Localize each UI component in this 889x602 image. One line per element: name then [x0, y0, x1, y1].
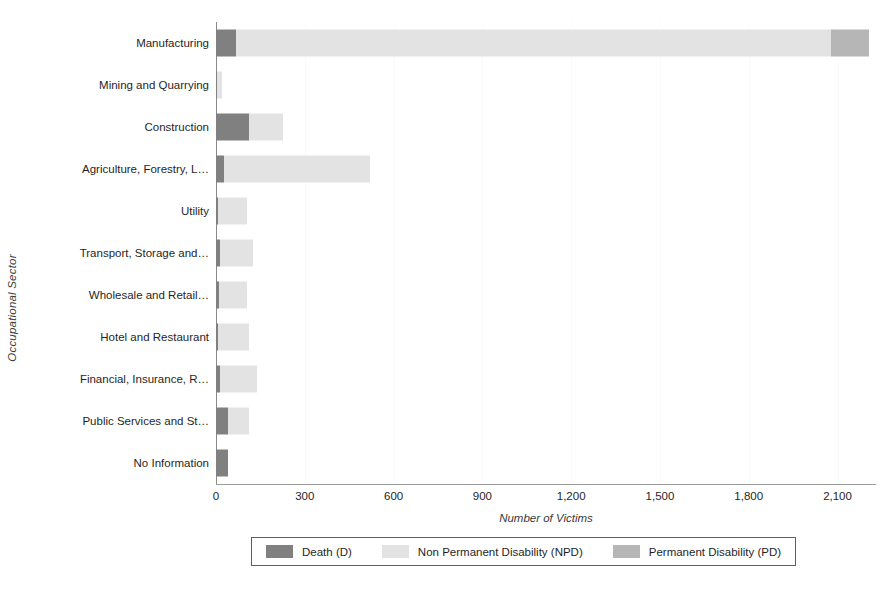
legend-swatch: [613, 545, 640, 558]
y-axis-tick-label: Utility: [181, 205, 209, 217]
bar-segment-d[interactable]: [216, 450, 228, 477]
bar-segment-npd[interactable]: [219, 282, 247, 309]
y-axis-tick-label: Public Services and St…: [82, 415, 209, 427]
legend-item[interactable]: Non Permanent Disability (NPD): [382, 545, 583, 558]
bar-segment-d[interactable]: [216, 114, 249, 141]
x-axis-tick-label: 300: [295, 490, 314, 502]
x-axis-line: [216, 484, 876, 485]
y-axis-title: Occupational Sector: [6, 218, 18, 398]
bar-row[interactable]: Manufacturing: [216, 22, 876, 64]
stacked-bar[interactable]: [216, 282, 247, 309]
legend-item[interactable]: Permanent Disability (PD): [613, 545, 781, 558]
bar-row[interactable]: Financial, Insurance, R…: [216, 358, 876, 400]
stacked-bar[interactable]: [216, 366, 257, 393]
y-axis-tick-label: Manufacturing: [136, 37, 209, 49]
y-axis-tick-label: Agriculture, Forestry, L…: [82, 163, 209, 175]
y-axis-tick-label: Mining and Quarrying: [99, 79, 209, 91]
bar-segment-pd[interactable]: [831, 30, 869, 57]
stacked-bar[interactable]: [216, 450, 228, 477]
stacked-bar[interactable]: [216, 72, 222, 99]
bar-row[interactable]: Agriculture, Forestry, L…: [216, 148, 876, 190]
bar-segment-npd[interactable]: [220, 240, 253, 267]
y-axis-tick-label: Transport, Storage and…: [80, 247, 209, 259]
stacked-bar[interactable]: [216, 324, 249, 351]
bar-segment-npd[interactable]: [218, 198, 247, 225]
legend-label: Non Permanent Disability (NPD): [418, 546, 583, 558]
bar-row[interactable]: Public Services and St…: [216, 400, 876, 442]
stacked-bar[interactable]: [216, 114, 283, 141]
stacked-bar[interactable]: [216, 156, 370, 183]
bar-row[interactable]: Utility: [216, 190, 876, 232]
bar-row[interactable]: Wholesale and Retail…: [216, 274, 876, 316]
stacked-bar[interactable]: [216, 408, 249, 435]
bar-segment-d[interactable]: [216, 156, 224, 183]
bar-row[interactable]: Hotel and Restaurant: [216, 316, 876, 358]
stacked-bar[interactable]: [216, 30, 869, 57]
bar-chart: Occupational Sector ManufacturingMining …: [0, 0, 889, 602]
x-axis-tick-label: 1,500: [646, 490, 675, 502]
bar-segment-npd[interactable]: [217, 72, 221, 99]
legend-swatch: [266, 545, 293, 558]
bar-segment-npd[interactable]: [224, 156, 370, 183]
x-axis-tick-label: 600: [384, 490, 403, 502]
x-axis-tick-label: 900: [473, 490, 492, 502]
y-axis-tick-label: Wholesale and Retail…: [89, 289, 209, 301]
bar-row[interactable]: Construction: [216, 106, 876, 148]
y-axis-tick-label: Hotel and Restaurant: [100, 331, 209, 343]
legend-label: Death (D): [302, 546, 352, 558]
y-axis-tick-label: No Information: [134, 457, 209, 469]
chart-legend: Death (D)Non Permanent Disability (NPD)P…: [251, 537, 796, 566]
bar-segment-npd[interactable]: [236, 30, 831, 57]
bar-segment-d[interactable]: [216, 408, 228, 435]
x-axis-tick-label: 1,800: [734, 490, 763, 502]
x-axis-tick-label: 2,100: [823, 490, 852, 502]
stacked-bar[interactable]: [216, 240, 253, 267]
bar-segment-npd[interactable]: [218, 324, 249, 351]
bar-row[interactable]: Transport, Storage and…: [216, 232, 876, 274]
bar-segment-npd[interactable]: [249, 114, 283, 141]
x-axis-tick-label: 0: [213, 490, 219, 502]
bar-segment-d[interactable]: [216, 30, 236, 57]
bar-segment-npd[interactable]: [220, 366, 257, 393]
legend-label: Permanent Disability (PD): [649, 546, 781, 558]
stacked-bar[interactable]: [216, 198, 247, 225]
bar-row[interactable]: Mining and Quarrying: [216, 64, 876, 106]
y-axis-tick-label: Financial, Insurance, R…: [80, 373, 209, 385]
legend-item[interactable]: Death (D): [266, 545, 352, 558]
bar-segment-npd[interactable]: [228, 408, 248, 435]
x-axis-title: Number of Victims: [216, 512, 876, 524]
legend-swatch: [382, 545, 409, 558]
y-axis-tick-label: Construction: [144, 121, 209, 133]
x-axis-tick-label: 1,200: [557, 490, 586, 502]
bar-row[interactable]: No Information: [216, 442, 876, 484]
plot-area: ManufacturingMining and QuarryingConstru…: [216, 22, 876, 484]
